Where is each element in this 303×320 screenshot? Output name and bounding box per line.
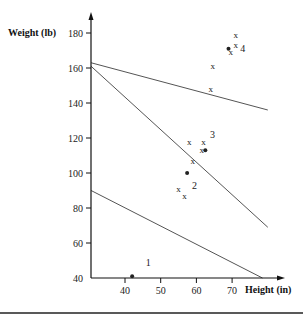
cluster-center-dot bbox=[203, 148, 207, 152]
sample-x-marker: x bbox=[187, 137, 192, 147]
y-tick-label: 140 bbox=[68, 98, 83, 109]
boundary-2-3-line bbox=[91, 66, 268, 227]
cluster-label: 4 bbox=[240, 43, 245, 54]
y-axis-arrow-icon bbox=[89, 12, 94, 20]
data-points: xxxxxxxxxxx bbox=[130, 30, 238, 279]
cluster-center-dot bbox=[130, 274, 134, 278]
y-tick-label: 40 bbox=[73, 273, 83, 284]
sample-x-marker: x bbox=[233, 40, 238, 50]
boundary-3-4-line bbox=[91, 63, 268, 110]
x-tick-label: 70 bbox=[227, 285, 237, 296]
sample-x-marker: x bbox=[208, 84, 213, 94]
y-tick-label: 100 bbox=[68, 168, 83, 179]
sample-x-marker: x bbox=[211, 61, 216, 71]
decision-boundaries bbox=[91, 63, 268, 278]
boundary-1-2-line bbox=[91, 191, 262, 279]
y-tick-label: 180 bbox=[68, 28, 83, 39]
cluster-labels: 1234 bbox=[146, 43, 246, 268]
x-axis-arrow-icon bbox=[277, 276, 285, 281]
x-tick-label: 50 bbox=[156, 285, 166, 296]
cluster-label: 3 bbox=[210, 129, 215, 140]
sample-x-marker: x bbox=[176, 184, 181, 194]
sample-x-marker: x bbox=[191, 156, 196, 166]
cluster-label: 1 bbox=[146, 257, 151, 268]
cluster-center-dot bbox=[185, 171, 189, 175]
y-axis-title: Weight (lb) bbox=[8, 27, 56, 39]
cluster-center-dot bbox=[227, 47, 231, 51]
x-axis-title: Height (in) bbox=[245, 284, 291, 296]
y-tick-label: 80 bbox=[73, 203, 83, 214]
y-tick-label: 60 bbox=[73, 238, 83, 249]
x-tick-label: 60 bbox=[191, 285, 201, 296]
x-tick-label: 40 bbox=[120, 285, 130, 296]
sample-x-marker: x bbox=[182, 191, 187, 201]
sample-x-marker: x bbox=[233, 30, 238, 40]
scatter-chart: 40608010012014016018040506070 xxxxxxxxxx… bbox=[0, 0, 303, 320]
cluster-label: 2 bbox=[192, 180, 197, 191]
y-tick-label: 120 bbox=[68, 133, 83, 144]
y-tick-label: 160 bbox=[68, 63, 83, 74]
